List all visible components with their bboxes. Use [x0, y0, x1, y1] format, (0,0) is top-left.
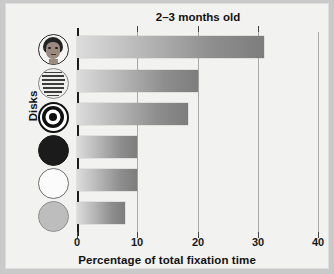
newsprint-line [44, 72, 62, 74]
plot-area: 0 10 20 30 40 [77, 32, 319, 232]
x-tick-label-40: 40 [312, 236, 324, 248]
disk-slot-black [34, 133, 72, 167]
disk-icons-column [34, 32, 72, 232]
bar-row-white [77, 169, 319, 191]
disk-slot-face [34, 32, 72, 66]
white-disk-icon [38, 168, 69, 199]
x-tick-label-30: 30 [252, 236, 264, 248]
figure-container: 2–3 months old Disks [0, 0, 334, 274]
face-neck-shape [49, 59, 58, 65]
bar-gray-disk [77, 202, 125, 224]
newsprint-lines [39, 71, 68, 98]
x-tick-label-0: 0 [74, 236, 80, 248]
bar-row-bullseye [77, 103, 319, 125]
x-axis-label: Percentage of total fixation time [6, 254, 328, 266]
disk-slot-bullseye [34, 100, 72, 134]
disk-slot-gray [34, 199, 72, 233]
disk-slot-newsprint [34, 66, 72, 100]
tick-top-30 [258, 26, 259, 32]
newsprint-line [47, 95, 60, 97]
newsprint-line [42, 75, 64, 77]
face-disk-icon [38, 34, 69, 65]
bar-row-face [77, 36, 319, 58]
bullseye-ring-center [49, 113, 57, 121]
x-tick-label-10: 10 [131, 236, 143, 248]
bar-row-newsprint [77, 70, 319, 92]
black-disk-icon [38, 135, 69, 166]
bar-bullseye-disk [77, 103, 188, 125]
chart-frame: 2–3 months old Disks [5, 3, 329, 269]
disk-slot-white [34, 166, 72, 200]
gray-disk-icon [38, 201, 69, 232]
bar-white-disk [77, 169, 137, 191]
face-right-eye [55, 47, 58, 49]
face-skin-shape [46, 42, 60, 59]
tick-top-10 [137, 26, 138, 32]
bullseye-disk-icon [38, 102, 69, 133]
x-tick-label-20: 20 [192, 236, 204, 248]
chart-title: 2–3 months old [77, 11, 319, 23]
newsprint-line [43, 87, 64, 89]
face-mouth [51, 54, 56, 56]
newsprint-disk-icon [38, 68, 69, 99]
newsprint-line [44, 91, 62, 93]
bar-face-disk [77, 36, 264, 58]
newsprint-line [42, 79, 65, 81]
newsprint-line [42, 83, 65, 85]
tick-top-20 [198, 26, 199, 32]
bar-row-gray [77, 202, 319, 224]
bar-printed-matter-disk [77, 70, 198, 92]
bar-black-disk [77, 136, 137, 158]
bar-row-black [77, 136, 319, 158]
face-left-eye [48, 47, 51, 49]
